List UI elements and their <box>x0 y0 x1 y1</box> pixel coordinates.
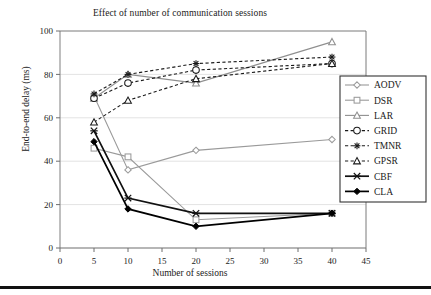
y-tick-label: 100 <box>40 26 54 36</box>
x-tick-label: 35 <box>294 256 304 266</box>
axes <box>60 31 366 248</box>
x-tick-label: 5 <box>92 256 97 266</box>
legend-label: TMNR <box>374 141 402 151</box>
x-tick-label: 25 <box>226 256 236 266</box>
y-tick-label: 80 <box>44 70 54 80</box>
y-tick-label: 60 <box>44 113 54 123</box>
chart-legend[interactable]: AODVDSRLARGRIDTMNRGPSRCBFCLA <box>340 76 426 202</box>
y-tick-label: 20 <box>44 200 54 210</box>
legend-label: CLA <box>374 187 393 197</box>
legend-label: GPSR <box>374 156 398 166</box>
x-tick-label: 15 <box>158 256 168 266</box>
x-tick-label: 40 <box>328 256 338 266</box>
y-tick-label: 40 <box>44 156 54 166</box>
x-tick-label: 45 <box>362 256 372 266</box>
x-tick-label: 0 <box>58 256 63 266</box>
x-tick-label: 20 <box>192 256 202 266</box>
legend-label: DSR <box>374 96 393 106</box>
figure: Effect of number of communication sessio… <box>0 0 431 295</box>
legend-label: LAR <box>374 111 394 121</box>
x-axis-ticks: 051015202530354045 <box>58 248 371 266</box>
plot-area: 020406080100 051015202530354045 AODVDSRL… <box>0 0 431 295</box>
data-series-layer <box>90 38 335 229</box>
y-tick-label: 0 <box>49 243 54 253</box>
x-tick-label: 30 <box>260 256 270 266</box>
series-gpsr <box>91 60 336 125</box>
y-axis-ticks: 020406080100 <box>40 26 61 253</box>
series-cla <box>91 138 335 229</box>
legend-label: GRID <box>374 126 397 136</box>
series-grid <box>91 60 336 101</box>
series-lar <box>91 38 336 101</box>
bottom-rule <box>0 286 431 289</box>
legend-label: AODV <box>374 80 402 90</box>
gridlines <box>60 74 366 204</box>
x-tick-label: 10 <box>124 256 134 266</box>
legend-label: CBF <box>374 172 392 182</box>
series-tmnr <box>91 54 336 98</box>
